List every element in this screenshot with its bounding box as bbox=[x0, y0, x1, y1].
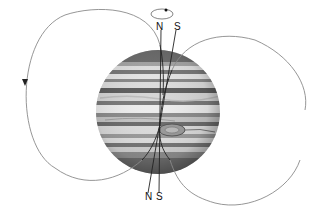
diagram-canvas bbox=[0, 0, 313, 216]
label-magnetic-south-top: S bbox=[174, 22, 181, 32]
label-rotation-north: N bbox=[156, 22, 163, 32]
label-magnetic-north-bottom: N bbox=[145, 192, 152, 202]
label-rotation-south-bottom: S bbox=[156, 192, 163, 202]
rotation-arrow-icon bbox=[151, 9, 173, 20]
jupiter-magnetosphere-diagram: N S N S bbox=[0, 0, 313, 216]
